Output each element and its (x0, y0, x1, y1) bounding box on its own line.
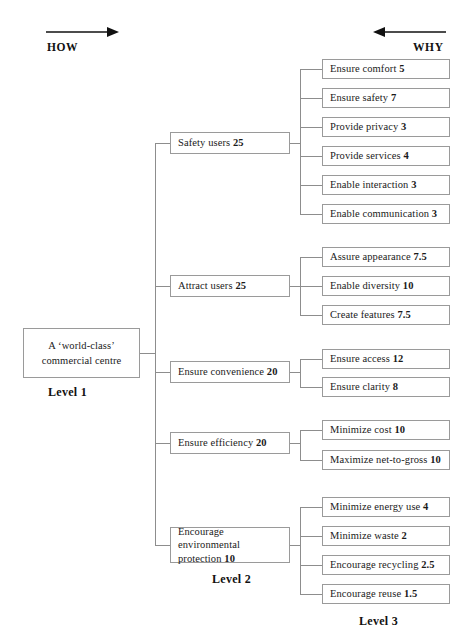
branch-weight-encourage-environmental-protection: 10 (224, 553, 235, 564)
leaf-label-ensure-comfort: Ensure comfort (330, 63, 396, 74)
leaf-label-enable-interaction: Enable interaction (330, 179, 408, 190)
leaf-label-minimize-cost: Minimize cost (330, 424, 392, 435)
branch-label-attract-users: Attract users (178, 280, 233, 291)
level-1-label: Level 1 (48, 385, 87, 400)
leaf-weight-minimize-energy-use: 4 (423, 501, 428, 512)
leaf-weight-provide-services: 4 (403, 150, 408, 161)
branch-label-ensure-convenience: Ensure convenience (178, 366, 264, 377)
leaf-label-ensure-access: Ensure access (330, 353, 390, 364)
leaf-weight-assure-appearance: 7.5 (413, 251, 426, 262)
leaf-box-ensure-comfort[interactable]: Ensure comfort 5 (322, 59, 450, 79)
leaf-label-encourage-reuse: Encourage reuse (330, 588, 401, 599)
leaf-box-create-features[interactable]: Create features 7.5 (322, 305, 450, 325)
branch-box-encourage-environmental-protection[interactable]: Encourage environmental protection 10 (170, 527, 290, 563)
root-line-2: commercial centre (42, 355, 122, 366)
leaf-label-ensure-safety: Ensure safety (330, 92, 388, 103)
leaf-box-provide-privacy[interactable]: Provide privacy 3 (322, 117, 450, 137)
leaf-weight-minimize-cost: 10 (394, 424, 405, 435)
leaf-label-assure-appearance: Assure appearance (330, 251, 411, 262)
branch-box-ensure-convenience[interactable]: Ensure convenience 20 (170, 361, 290, 383)
level-3-label: Level 3 (359, 614, 398, 629)
branch-label-ensure-efficiency: Ensure efficiency (178, 437, 253, 448)
leaf-box-assure-appearance[interactable]: Assure appearance 7.5 (322, 247, 450, 267)
leaf-weight-enable-communication: 3 (432, 208, 437, 219)
leaf-box-encourage-reuse[interactable]: Encourage reuse 1.5 (322, 584, 450, 604)
leaf-box-ensure-safety[interactable]: Ensure safety 7 (322, 88, 450, 108)
leaf-box-encourage-recycling[interactable]: Encourage recycling 2.5 (322, 555, 450, 575)
branch-weight-safety-users: 25 (233, 137, 244, 148)
leaf-box-ensure-clarity[interactable]: Ensure clarity 8 (322, 377, 450, 397)
leaf-box-minimize-waste[interactable]: Minimize waste 2 (322, 526, 450, 546)
leaf-box-minimize-energy-use[interactable]: Minimize energy use 4 (322, 497, 450, 517)
leaf-label-enable-communication: Enable communication (330, 208, 429, 219)
leaf-label-ensure-clarity: Ensure clarity (330, 381, 390, 392)
leaf-box-minimize-cost[interactable]: Minimize cost 10 (322, 420, 450, 440)
leaf-label-maximize-net-to-gross: Maximize net-to-gross (330, 454, 427, 465)
leaf-weight-ensure-safety: 7 (391, 92, 396, 103)
why-arrow-icon (372, 25, 447, 39)
leaf-box-enable-diversity[interactable]: Enable diversity 10 (322, 276, 450, 296)
leaf-weight-create-features: 7.5 (398, 309, 411, 320)
branch-box-ensure-efficiency[interactable]: Ensure efficiency 20 (170, 432, 290, 454)
leaf-weight-enable-interaction: 3 (411, 179, 416, 190)
branch-box-safety-users[interactable]: Safety users 25 (170, 132, 290, 154)
how-label: HOW (47, 41, 78, 53)
leaf-label-encourage-recycling: Encourage recycling (330, 559, 418, 570)
branch-label-safety-users: Safety users (178, 137, 230, 148)
leaf-weight-ensure-clarity: 8 (393, 381, 398, 392)
leaf-box-provide-services[interactable]: Provide services 4 (322, 146, 450, 166)
leaf-label-minimize-energy-use: Minimize energy use (330, 501, 420, 512)
leaf-weight-minimize-waste: 2 (402, 530, 407, 541)
leaf-weight-maximize-net-to-gross: 10 (430, 454, 441, 465)
level-2-label: Level 2 (212, 572, 251, 587)
branch-weight-ensure-convenience: 20 (267, 366, 278, 377)
leaf-label-enable-diversity: Enable diversity (330, 280, 400, 291)
leaf-label-minimize-waste: Minimize waste (330, 530, 399, 541)
branch-weight-attract-users: 25 (235, 280, 246, 291)
leaf-weight-ensure-access: 12 (393, 353, 404, 364)
root-box[interactable]: A ‘world-class’ commercial centre (23, 328, 140, 378)
branch-box-attract-users[interactable]: Attract users 25 (170, 275, 290, 297)
leaf-box-enable-communication[interactable]: Enable communication 3 (322, 204, 450, 224)
how-arrow-icon (45, 25, 120, 39)
leaf-box-maximize-net-to-gross[interactable]: Maximize net-to-gross 10 (322, 450, 450, 470)
why-label: WHY (413, 41, 444, 53)
leaf-label-create-features: Create features (330, 309, 395, 320)
leaf-weight-encourage-recycling: 2.5 (421, 559, 434, 570)
leaf-weight-ensure-comfort: 5 (399, 63, 404, 74)
leaf-weight-provide-privacy: 3 (401, 121, 406, 132)
leaf-weight-encourage-reuse: 1.5 (404, 588, 417, 599)
leaf-box-ensure-access[interactable]: Ensure access 12 (322, 349, 450, 369)
branch-weight-ensure-efficiency: 20 (256, 437, 267, 448)
leaf-weight-enable-diversity: 10 (403, 280, 414, 291)
leaf-label-provide-services: Provide services (330, 150, 401, 161)
leaf-box-enable-interaction[interactable]: Enable interaction 3 (322, 175, 450, 195)
diagram-canvas: HOW WHY (0, 0, 467, 637)
leaf-label-provide-privacy: Provide privacy (330, 121, 398, 132)
root-line-1: A ‘world-class’ (48, 340, 115, 351)
